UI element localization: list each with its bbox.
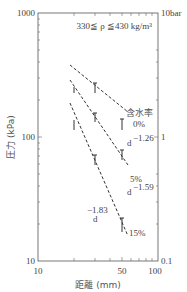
slope-exp-15: −1.83 xyxy=(87,205,108,215)
y2-tick-1: 1 xyxy=(161,132,166,142)
y-tick-1000: 1000 xyxy=(17,8,36,18)
slope-d-0: d xyxy=(127,138,132,148)
x-tick-10: 10 xyxy=(34,266,44,276)
y-tick-10: 10 xyxy=(26,256,36,266)
chart-title: 330≦ ρ ≦430 kg/m³ xyxy=(77,21,153,31)
slope-exp-5: −1.59 xyxy=(133,182,154,192)
slope-d-15: d xyxy=(93,214,98,224)
slope-d-5: d xyxy=(127,187,132,197)
y2-tick-10bar: 10bar xyxy=(161,8,182,18)
series-0pct-line xyxy=(70,65,128,112)
y-axis-label: 圧力 (kPa) xyxy=(5,115,16,159)
y2-tick-0.1: 0.1 xyxy=(161,256,172,266)
slope-exp-0: −1.26 xyxy=(133,133,154,143)
y-tick-100: 100 xyxy=(22,132,36,142)
x-axis-label: 距離 (mm) xyxy=(75,279,120,290)
legend-title: 含水率 xyxy=(126,107,153,118)
x-tick-100: 100 xyxy=(148,266,162,276)
label-15pct: 15% xyxy=(129,228,146,238)
x-tick-50: 50 xyxy=(118,266,128,276)
label-0pct: 0% xyxy=(133,119,146,129)
chart: 1000 100 10 10bar 1 0.1 10 50 100 距離 (mm… xyxy=(0,0,187,292)
